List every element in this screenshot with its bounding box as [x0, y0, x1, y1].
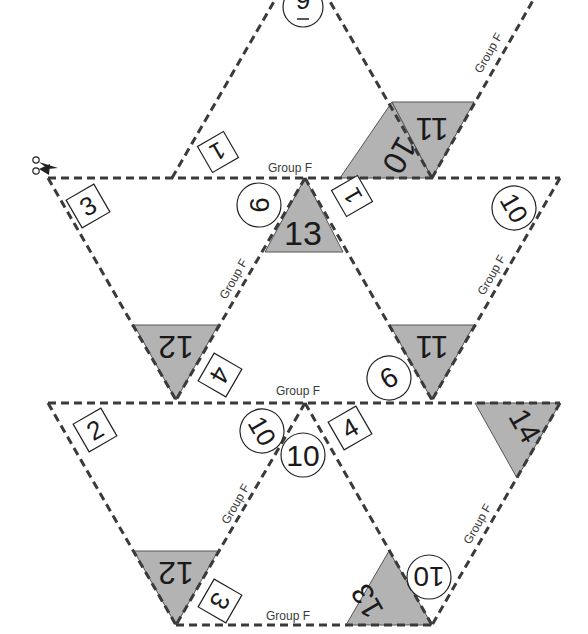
group-label-bottom: Group F	[266, 609, 310, 623]
scissors-icon	[33, 157, 58, 175]
boxed-number-mid-4: 4	[198, 353, 242, 397]
shaded-number-mid-13: 13	[284, 214, 322, 252]
svg-text:6: 6	[244, 197, 275, 213]
circled-number-top-9: 9	[283, 0, 323, 27]
circled-number-mid-10: 10	[484, 178, 544, 238]
cutout-sheet: Group F Group F Group F Group F Group F …	[0, 0, 588, 634]
shaded-number-mid-12: 12	[158, 329, 194, 365]
group-label-mid: Group F	[276, 384, 320, 398]
svg-text:10: 10	[413, 561, 444, 592]
boxed-number-top-1: 1	[198, 132, 239, 173]
group-label-low-right: Group F	[460, 501, 494, 546]
cut-lines	[48, 0, 560, 625]
circled-number-mid-6: 6	[237, 183, 281, 227]
boxed-number-mid-3: 3	[66, 184, 110, 228]
boxed-number-mid-1: 1	[332, 176, 373, 217]
boxed-number-low-2: 2	[73, 408, 117, 452]
circled-number-low-10b: 10	[281, 433, 325, 477]
svg-text:10: 10	[286, 439, 319, 472]
circled-number-low-10c: 10	[407, 555, 451, 599]
shaded-number-mid-11: 11	[415, 329, 448, 365]
group-label-mid-right: Group F	[474, 252, 508, 297]
boxed-number-low-4: 4	[328, 406, 372, 450]
group-label-top-right: Group F	[471, 30, 505, 75]
shaded-number-low-12: 12	[158, 555, 194, 591]
boxed-number-low-3: 3	[198, 579, 242, 623]
group-label-top: Group F	[268, 161, 312, 175]
svg-text:9: 9	[296, 0, 310, 15]
shaded-number-top-11: 11	[415, 111, 448, 147]
